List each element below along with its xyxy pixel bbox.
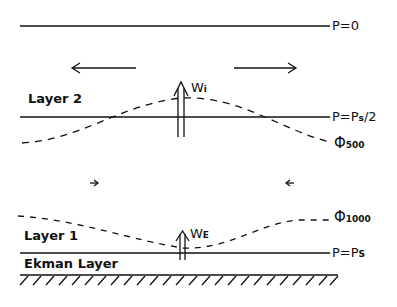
label-we-main: W xyxy=(190,226,203,241)
label-wi: Wi xyxy=(191,80,207,95)
label-layer-1: Layer 1 xyxy=(24,228,78,243)
label-we-sub: E xyxy=(203,230,209,240)
label-p-mid-main: P=P xyxy=(332,109,359,124)
phi-symbol: Φ xyxy=(334,134,346,152)
we-arrow xyxy=(176,231,189,241)
label-phi500: Φ500 xyxy=(334,134,365,152)
label-layer-2: Layer 2 xyxy=(28,91,82,106)
label-p-surface: P=PS xyxy=(332,245,365,260)
label-p-top: P=0 xyxy=(332,18,359,33)
label-p-surface-sub: S xyxy=(359,249,365,259)
label-we: WE xyxy=(190,226,209,241)
wi-arrow xyxy=(174,82,188,96)
label-phi1000: Φ1000 xyxy=(334,208,371,226)
label-ekman-layer: Ekman Layer xyxy=(24,256,118,271)
two-layer-model-diagram: P=0 P=Ps/2 Φ500 Φ1000 P=PS Wi WE Layer 2… xyxy=(0,0,397,307)
label-wi-sub: i xyxy=(204,84,207,94)
phi-symbol: Φ xyxy=(334,208,346,226)
label-wi-main: W xyxy=(191,80,204,95)
ground-hatching xyxy=(20,276,338,285)
label-p-mid: P=Ps/2 xyxy=(332,109,377,124)
label-phi1000-sub: 1000 xyxy=(346,214,371,224)
label-phi500-sub: 500 xyxy=(346,140,365,150)
label-p-mid-suffix: /2 xyxy=(364,109,377,124)
label-p-surface-main: P=P xyxy=(332,245,359,260)
